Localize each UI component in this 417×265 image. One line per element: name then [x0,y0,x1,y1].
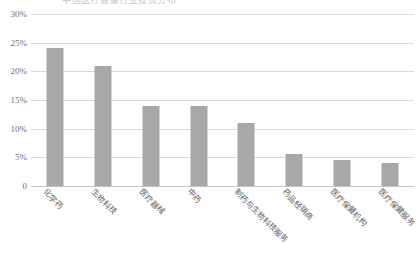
y-axis-tick-label: 30% [11,10,28,19]
x-axis-category-label: 中药 [185,188,202,205]
bar-slot [223,14,271,186]
y-axis-tick-label: 20% [11,67,28,76]
bar[interactable] [238,123,255,186]
bar-slot [175,14,223,186]
axis-baseline: 0 [31,186,414,187]
bar-slot [31,14,79,186]
bar[interactable] [334,160,351,186]
bar[interactable] [142,106,159,186]
bar-slot [318,14,366,186]
x-axis-category-label: 生物科技 [89,188,117,216]
bar-slot [270,14,318,186]
x-axis-category-label: 药品经销商 [281,188,315,222]
bar[interactable] [94,66,111,186]
y-axis-tick-label: 0 [23,182,28,191]
bars-layer [31,14,414,186]
x-axis-category-label: 医疗保健机构 [329,188,369,228]
chart-title: 中国医疗健康行业投资分布 [62,0,176,6]
y-axis-tick-label: 25% [11,38,28,47]
x-axis-category-label: 医疗器械 [137,188,165,216]
bar[interactable] [46,48,63,186]
plot-area: 05%10%15%20%25%30% [31,14,414,186]
bar[interactable] [190,106,207,186]
bar-slot [127,14,175,186]
y-axis-tick-label: 5% [15,153,27,162]
x-axis-category-label: 制药与生物科技服务 [233,188,290,245]
x-axis-category-label: 医疗保健服务 [376,188,416,228]
bar[interactable] [286,154,303,186]
y-axis-tick-label: 15% [11,96,28,105]
bar-chart: 中国医疗健康行业投资分布 05%10%15%20%25%30% 化学药生物科技医… [0,0,417,265]
y-axis-tick-label: 10% [11,124,28,133]
bar-slot [79,14,127,186]
bar[interactable] [382,163,399,187]
x-axis-labels: 化学药生物科技医疗器械中药制药与生物科技服务药品经销商医疗保健机构医疗保健服务 [31,188,414,263]
x-axis-category-label: 化学药 [41,188,64,211]
bar-slot [366,14,414,186]
